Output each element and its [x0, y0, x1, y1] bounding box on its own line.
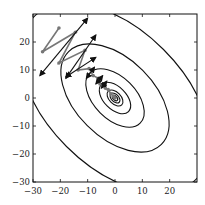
- iterate-point: [109, 92, 113, 96]
- x-tick-label: 20: [164, 186, 175, 196]
- y-tick-label: −30: [12, 177, 30, 187]
- x-tick-label: 10: [137, 186, 148, 196]
- iterate-point: [57, 61, 61, 65]
- x-tick-label: −20: [51, 186, 69, 196]
- x-tick-label: 0: [112, 186, 117, 196]
- x-tick-label: −30: [24, 186, 42, 196]
- iterate-point: [98, 82, 102, 86]
- y-tick-label: 20: [19, 37, 30, 47]
- iterate-point: [41, 50, 45, 54]
- y-tick-label: 0: [25, 93, 30, 103]
- contour-lines: [0, 0, 205, 205]
- iterate-point: [91, 74, 95, 78]
- y-tick-label: 10: [19, 65, 30, 75]
- iterate-point: [87, 67, 91, 71]
- x-tick-label: −10: [79, 186, 97, 196]
- contour-chart: −30−20−1001020 −30−20−1001020: [0, 0, 205, 205]
- y-tick-label: −10: [12, 121, 30, 131]
- y-tick-label: −20: [12, 149, 30, 159]
- x-axis: −30−20−1001020: [24, 14, 175, 196]
- iterate-point: [113, 96, 117, 100]
- iterate-point: [57, 26, 61, 30]
- iterate-point: [106, 88, 110, 92]
- plot-area: [0, 0, 205, 205]
- contour-line: [0, 0, 205, 205]
- contour-line: [0, 0, 205, 205]
- y-axis: −30−20−1001020: [12, 37, 197, 187]
